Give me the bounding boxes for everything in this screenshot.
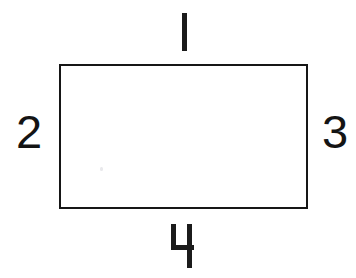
side-label-left: 2 [12, 108, 46, 166]
diagram-canvas: 1 2 3 4 [0, 0, 356, 278]
digit-one-stroke-icon [182, 13, 187, 51]
side-label-right: 3 [318, 108, 352, 166]
scan-artifact-speck [100, 167, 103, 171]
side-label-top: 1 [165, 8, 201, 56]
digit-four-stem-icon [187, 224, 192, 268]
side-label-bottom: 4 [162, 220, 204, 276]
rectangle-shape [59, 64, 308, 209]
